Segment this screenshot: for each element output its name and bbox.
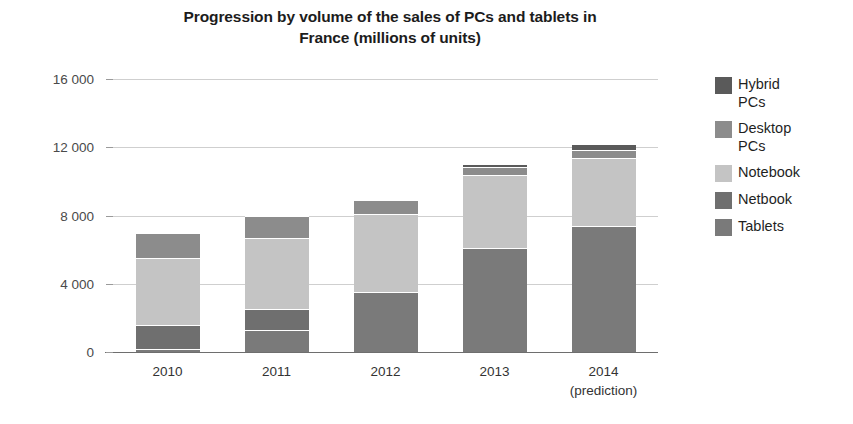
y-axis-tick	[106, 352, 113, 353]
chart-title-line-1: Progression by volume of the sales of PC…	[90, 6, 690, 27]
bar-segment[interactable]	[572, 226, 636, 352]
legend-item-label: Netbook	[738, 191, 792, 209]
bar-group[interactable]	[136, 233, 200, 352]
bar-segment[interactable]	[463, 175, 527, 248]
y-axis-tick-label: 16 000	[32, 72, 94, 87]
legend-item[interactable]: Tablets	[715, 218, 850, 236]
y-axis-labels: 04 0008 00012 00016 000	[32, 79, 94, 352]
legend-item-label: Notebook	[738, 164, 800, 182]
bar-segment[interactable]	[245, 238, 309, 310]
legend-swatch-icon	[715, 77, 732, 94]
x-axis-label-year: 2014	[588, 364, 618, 379]
bar-group[interactable]	[572, 144, 636, 352]
bar-segment[interactable]	[463, 164, 527, 167]
legend-item[interactable]: Hybrid PCs	[715, 76, 850, 111]
bar-group[interactable]	[354, 200, 418, 352]
bar-segment[interactable]	[463, 167, 527, 176]
bar-segment[interactable]	[572, 150, 636, 158]
legend-item-label: Hybrid PCs	[738, 76, 780, 111]
chart-title-line-2: France (millions of units)	[90, 27, 690, 48]
x-axis-label-year: 2013	[479, 364, 509, 379]
bar-segment[interactable]	[136, 233, 200, 259]
stacked-bar-chart: Progression by volume of the sales of PC…	[0, 0, 853, 424]
legend-swatch-icon	[715, 121, 732, 138]
bar-segment[interactable]	[245, 216, 309, 238]
bar-segment[interactable]	[136, 349, 200, 352]
x-axis-tick-label: 2012	[331, 362, 441, 381]
legend-item[interactable]: Netbook	[715, 191, 850, 209]
bar-segment[interactable]	[572, 144, 636, 149]
x-axis-tick-label: 2011	[222, 362, 332, 381]
x-axis-tick-label: 2014(prediction)	[549, 362, 659, 400]
y-axis-tick-label: 12 000	[32, 140, 94, 155]
bar-segment[interactable]	[245, 309, 309, 329]
legend-swatch-icon	[715, 165, 732, 182]
y-axis-tick	[106, 284, 113, 285]
chart-legend: Hybrid PCsDesktop PCsNotebookNetbookTabl…	[715, 76, 850, 245]
x-axis-labels: 20102011201220132014(prediction)	[113, 356, 658, 406]
x-axis-label-year: 2012	[370, 364, 400, 379]
gridline	[113, 79, 658, 80]
y-axis-tick-label: 4 000	[32, 276, 94, 291]
legend-item[interactable]: Notebook	[715, 164, 850, 182]
bar-group[interactable]	[463, 164, 527, 352]
legend-item-label: Desktop PCs	[738, 120, 791, 155]
y-axis-tick	[106, 79, 113, 80]
x-axis-tick-label: 2013	[440, 362, 550, 381]
y-axis-tick	[106, 147, 113, 148]
bar-segment[interactable]	[136, 325, 200, 349]
bar-segment[interactable]	[245, 330, 309, 352]
bar-segment[interactable]	[136, 258, 200, 325]
chart-title: Progression by volume of the sales of PC…	[90, 6, 690, 48]
x-axis-label-note: (prediction)	[549, 381, 659, 400]
y-axis-tick-label: 0	[32, 345, 94, 360]
bar-segment[interactable]	[354, 214, 418, 292]
bar-group[interactable]	[245, 216, 309, 353]
plot-area	[113, 79, 658, 352]
legend-item[interactable]: Desktop PCs	[715, 120, 850, 155]
y-axis-tick-label: 8 000	[32, 208, 94, 223]
x-axis-label-year: 2011	[262, 364, 291, 379]
bar-segment[interactable]	[354, 292, 418, 352]
legend-swatch-icon	[715, 192, 732, 209]
legend-item-label: Tablets	[738, 218, 784, 236]
bar-segment[interactable]	[572, 158, 636, 226]
legend-swatch-icon	[715, 219, 732, 236]
x-axis-label-year: 2010	[152, 364, 182, 379]
x-axis-tick-label: 2010	[113, 362, 223, 381]
bar-segment[interactable]	[463, 248, 527, 352]
bar-segment[interactable]	[354, 200, 418, 214]
y-axis-tick	[106, 216, 113, 217]
